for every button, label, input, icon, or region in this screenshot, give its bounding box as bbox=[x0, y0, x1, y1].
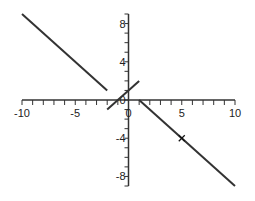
y-tick-label: 8 bbox=[119, 18, 125, 30]
x-tick-label: -5 bbox=[70, 107, 80, 119]
segment-left bbox=[22, 14, 107, 90]
x-tick-label: -10 bbox=[14, 107, 30, 119]
x-tick-label: 0 bbox=[125, 107, 131, 119]
y-tick-label: -4 bbox=[116, 132, 126, 144]
markers-group bbox=[179, 135, 185, 141]
x-marker-icon bbox=[179, 135, 185, 141]
x-tick-label: 10 bbox=[229, 107, 241, 119]
piecewise-function-plot: -10-50510-8-4048 bbox=[0, 0, 255, 201]
x-tick-label: 5 bbox=[179, 107, 185, 119]
y-tick-label: -8 bbox=[116, 170, 126, 182]
segment-right bbox=[139, 100, 235, 186]
y-tick-label: 4 bbox=[119, 56, 125, 68]
